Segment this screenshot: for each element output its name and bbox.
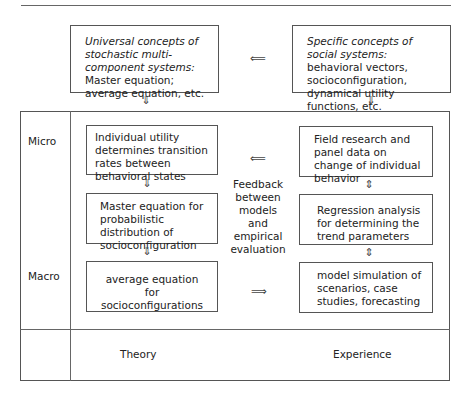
column-divider [70, 111, 71, 381]
arrow-down-theory-1: ⇓ [141, 177, 153, 190]
arrow-left-feedback: ⟸ [248, 152, 268, 165]
experience-box-simulation: model simulation of scenarios, case stud… [299, 262, 433, 313]
experience-box-field: Field research and panel data on change … [299, 126, 433, 177]
micro-label: Micro [28, 135, 56, 147]
arrow-left-top: ⟸ [248, 52, 268, 65]
theory-box-utility: Individual utility determines transition… [86, 125, 218, 175]
feedback-label: Feedback between models and empirical ev… [230, 178, 286, 256]
universal-concepts-title: Universal concepts of stochastic multi-c… [85, 35, 198, 73]
row-divider [20, 329, 450, 330]
arrow-right-bottom: ⟹ [247, 285, 271, 298]
top-rule [21, 5, 451, 6]
experience-footer: Experience [333, 348, 392, 360]
theory-box-utility-text: Individual utility determines transition… [95, 131, 208, 182]
theory-box-master: Master equation for probabilistic distri… [86, 193, 218, 244]
experience-box-field-text: Field research and panel data on change … [314, 133, 420, 184]
macro-label: Macro [28, 270, 60, 282]
specific-concepts-text: behavioral vectors, socioconfiguration, … [307, 61, 408, 112]
experience-box-regression: Regression analysis for determining the … [299, 194, 433, 245]
experience-box-regression-text: Regression analysis for determining the … [317, 204, 420, 242]
arrow-updown-1: ⇕ [363, 178, 375, 191]
theory-box-master-text: Master equation for probabilistic distri… [100, 200, 203, 251]
specific-concepts-box: Specific concepts of social systems: beh… [292, 25, 451, 93]
theory-box-average: average equation for socioconfigurations [86, 261, 218, 312]
theory-footer: Theory [120, 348, 156, 360]
universal-concepts-box: Universal concepts of stochastic multi-c… [70, 25, 219, 93]
experience-box-simulation-text: model simulation of scenarios, case stud… [317, 269, 421, 307]
specific-concepts-title: Specific concepts of social systems: [307, 35, 412, 60]
arrow-down-top-left: ⇓ [136, 94, 156, 107]
arrow-updown-2: ⇕ [363, 246, 375, 259]
arrow-down-top-right: ⇓ [361, 94, 381, 107]
arrow-down-theory-2: ⇓ [141, 245, 153, 258]
theory-box-average-text: average equation for socioconfigurations [101, 273, 203, 311]
